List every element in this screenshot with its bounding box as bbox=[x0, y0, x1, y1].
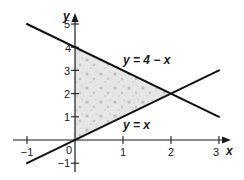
label-y-equals-4-minus-x: y = 4 − x bbox=[122, 53, 172, 67]
origin-label: 0 bbox=[66, 144, 72, 156]
y-tick-label-2: 2 bbox=[64, 88, 70, 100]
graph-figure: −1 0 1 2 3 −1 1 2 3 4 5 x y y = 4 − x y … bbox=[0, 0, 244, 180]
y-axis-arrow-icon bbox=[72, 13, 79, 22]
y-tick-label-4: 4 bbox=[65, 42, 71, 54]
x-tick-label-3: 3 bbox=[213, 146, 219, 158]
y-tick-label-1: 1 bbox=[64, 111, 70, 123]
x-tick-label-2: 2 bbox=[168, 146, 174, 158]
y-tick-label-minus1: −1 bbox=[57, 157, 70, 169]
label-y-equals-x: y = x bbox=[122, 118, 151, 132]
x-axis-label: x bbox=[225, 144, 234, 158]
y-axis-label: y bbox=[62, 9, 71, 23]
y-tick-label-3: 3 bbox=[64, 65, 70, 77]
x-axis-arrow-icon bbox=[222, 137, 231, 144]
x-tick-label-1: 1 bbox=[120, 146, 126, 158]
x-tick-label-minus1: −1 bbox=[21, 146, 34, 158]
plot-canvas: −1 0 1 2 3 −1 1 2 3 4 5 x y y = 4 − x y … bbox=[0, 0, 244, 180]
